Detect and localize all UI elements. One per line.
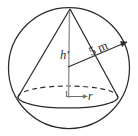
radius-arrowhead xyxy=(121,42,128,47)
cone-base-front-arc xyxy=(18,97,118,108)
base-radius-arrowhead xyxy=(83,95,87,99)
base-radius-label: r xyxy=(88,90,93,102)
right-angle-marker xyxy=(67,91,74,97)
sphere-radius-label: 5 m xyxy=(87,38,110,58)
height-label: h′ xyxy=(60,48,69,62)
cone-in-sphere-figure: h′ 5 m r xyxy=(0,0,138,136)
geometry-diagram-svg: h′ 5 m r xyxy=(0,0,138,136)
